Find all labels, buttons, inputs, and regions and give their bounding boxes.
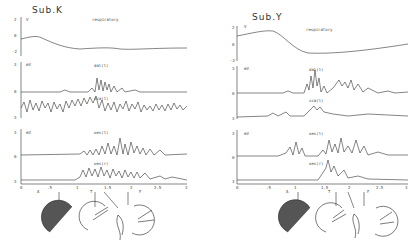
panel-sub-k: Sub.K V respiratory 2 0 -2 mV 3 0 3 dal(… <box>0 0 207 246</box>
panel-sub-y: Sub.Y V respiratory 2 0 -2 mV 3 0 3 dal(… <box>208 0 415 246</box>
signal-plot <box>0 0 207 246</box>
signal-plot <box>208 0 415 246</box>
posture-figures <box>41 200 154 240</box>
posture-figures <box>278 200 398 238</box>
